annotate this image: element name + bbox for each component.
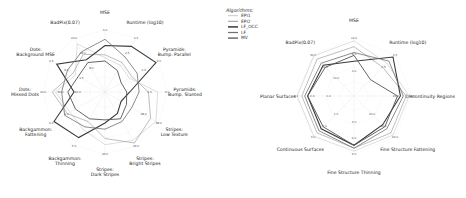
tick-label: 40.0 bbox=[40, 90, 46, 94]
axis-label: Runtime (log10) bbox=[389, 40, 426, 45]
tick-label: 2.5 bbox=[125, 51, 130, 55]
axis-label: MSE bbox=[349, 18, 359, 23]
tick-label: 60.0 bbox=[392, 135, 398, 139]
radar-charts: 3.0MSE4.52.5Runtime (log10)3.01.0Pyramid… bbox=[0, 0, 466, 198]
tick-label: 20.0 bbox=[75, 90, 81, 94]
legend-item: LF bbox=[241, 30, 246, 35]
axis-label: BadPix(0.07) bbox=[286, 40, 316, 45]
tick-label: 1.0 bbox=[334, 112, 339, 116]
tick-label: 28.0 bbox=[141, 112, 147, 116]
axis-label: Continuous Surfaces bbox=[277, 147, 325, 152]
tick-label: 1.0 bbox=[326, 94, 331, 98]
tick-label: 9.0 bbox=[352, 152, 357, 156]
axis-label: Pyramids:Bump. Parallel bbox=[158, 47, 191, 57]
series-epi1 bbox=[55, 44, 157, 145]
tick-label: 6.0 bbox=[352, 136, 357, 140]
legend-item: EPI1 bbox=[241, 13, 251, 18]
tick-label: 30.0 bbox=[57, 90, 63, 94]
axis-label: Dots:Missed Dots bbox=[11, 87, 39, 97]
tick-label: 3.0 bbox=[103, 28, 108, 32]
tick-label: 10.0 bbox=[333, 76, 339, 80]
tick-label: 8.0 bbox=[89, 66, 94, 70]
axis-label: Fine Structure Fattening bbox=[380, 147, 435, 152]
radar-chart-left: 3.0MSE4.52.5Runtime (log10)3.01.0Pyramid… bbox=[11, 10, 202, 178]
legend-item: EPI2 bbox=[241, 19, 251, 24]
axis-label: Dots:Background MSE bbox=[16, 47, 55, 57]
axis-label: MSE bbox=[100, 10, 110, 15]
legend: Algorithms: EPI1EPI2LF_OCCLFMV bbox=[225, 8, 258, 40]
axis-label: Runtime (log10) bbox=[126, 20, 163, 25]
tick-label: 46.0 bbox=[102, 152, 108, 156]
tick-label: 1.0 bbox=[141, 68, 146, 72]
tick-label: 24.0 bbox=[71, 36, 77, 40]
tick-label: 3.0 bbox=[311, 135, 316, 139]
tick-label: 1.5 bbox=[79, 76, 84, 80]
tick-label: 3.0 bbox=[156, 59, 161, 63]
axis-label: Backgammon:Fattening bbox=[19, 127, 53, 137]
radar-chart-right: 12.08.04.0MSE4.52.5Runtime (log10)30.020… bbox=[260, 18, 455, 175]
tick-label: 2.0 bbox=[310, 94, 315, 98]
axis-label: Backgammon:Thinning bbox=[48, 156, 82, 166]
tick-label: 5.0 bbox=[72, 144, 77, 148]
tick-label: 12.0 bbox=[351, 36, 357, 40]
tick-label: 4.0 bbox=[352, 69, 357, 73]
tick-label: 6.0 bbox=[49, 121, 54, 125]
axis-label: Stripes:Bright Stripes bbox=[129, 156, 161, 166]
tick-label: 3.0 bbox=[352, 120, 357, 124]
axis-label: Pyramids:Bump. Slanted bbox=[168, 87, 202, 97]
axis-label: Discontinuity Regions bbox=[405, 94, 455, 99]
axis-label: Stripes:Low Texture bbox=[161, 127, 188, 137]
axis-label: Fine Structure Thinning bbox=[327, 170, 381, 175]
tick-label: 20.0 bbox=[369, 112, 375, 116]
tick-label: 4.5 bbox=[49, 59, 54, 63]
tick-label: 38.0 bbox=[156, 121, 162, 125]
legend-item: MV bbox=[241, 35, 248, 40]
tick-label: 4.5 bbox=[134, 36, 139, 40]
axis-label: Planar Surfaces bbox=[260, 94, 296, 99]
tick-label: 4.5 bbox=[393, 53, 398, 57]
axis-label: Stripes:Dark Stripes bbox=[91, 167, 120, 177]
tick-label: 46.0 bbox=[133, 144, 139, 148]
axis-label: BadPix(0.07) bbox=[50, 20, 80, 25]
